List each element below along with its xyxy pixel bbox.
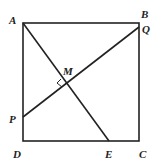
label-e: E: [104, 148, 112, 160]
label-c: C: [139, 148, 147, 160]
label-b: B: [140, 8, 148, 20]
label-d: D: [12, 148, 21, 160]
segment-ae: [23, 23, 109, 141]
label-p: P: [9, 113, 16, 125]
label-q: Q: [142, 23, 150, 35]
label-m: M: [62, 65, 74, 77]
label-a: A: [8, 14, 16, 26]
geometry-diagram: A B Q M P D E C: [0, 0, 161, 162]
